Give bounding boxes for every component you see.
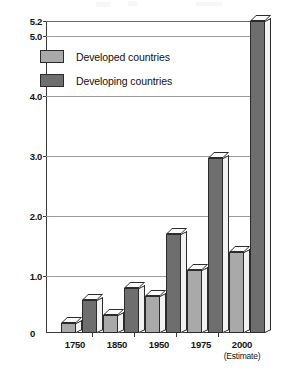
bar-face [145, 296, 160, 333]
bar-face [124, 288, 139, 333]
bar-face [250, 21, 265, 333]
bar-2000-developed[interactable] [229, 252, 244, 333]
bar-1950-developed[interactable] [145, 296, 160, 333]
gridline-5-0 [46, 36, 257, 37]
bar-face [229, 252, 244, 333]
bar-1850-developed[interactable] [103, 315, 118, 333]
legend: Developed countries Developing countries [40, 47, 172, 95]
bar-face [187, 270, 202, 333]
y-tick-label-5-2: 5.2 [14, 16, 42, 27]
x-tick-label-2000: 2000 (Estimate) [212, 339, 272, 361]
y-tick-label-1-0: 1.0 [14, 271, 42, 282]
bar-face [208, 158, 223, 333]
legend-item-developed[interactable]: Developed countries [40, 47, 172, 66]
legend-label-developing: Developing countries [76, 75, 172, 87]
x-tick-mark [92, 333, 93, 337]
bar-face [166, 234, 181, 333]
bar-1750-developing[interactable] [82, 300, 97, 333]
y-tick-label-2-0: 2.0 [14, 211, 42, 222]
x-tick-mark [134, 333, 135, 337]
bar-chart: 5.2 5.0 4.0 3.0 2.0 1.0 0 [0, 0, 292, 382]
bar-1750-developed[interactable] [61, 323, 76, 333]
legend-swatch-developed-icon [40, 50, 64, 63]
legend-item-developing[interactable]: Developing countries [40, 71, 172, 90]
bar-2000-developing[interactable] [250, 21, 265, 333]
y-tick-label-5-0: 5.0 [14, 31, 42, 42]
x-tick-label-2000-year: 2000 [232, 339, 252, 350]
gridline-4-0 [46, 96, 257, 97]
x-tick-label-2000-estimate: (Estimate) [212, 351, 272, 361]
bar-face [82, 300, 97, 333]
bar-1975-developing[interactable] [208, 158, 223, 333]
bar-1975-developed[interactable] [187, 270, 202, 333]
y-tick-label-3-0: 3.0 [14, 151, 42, 162]
y-tick-label-0: 0 [30, 328, 35, 339]
bar-side [265, 18, 271, 333]
bar-face [61, 323, 76, 333]
bar-1850-developing[interactable] [124, 288, 139, 333]
bar-1950-developing[interactable] [166, 234, 181, 333]
gridline-5-2 [46, 21, 257, 22]
bar-face [103, 315, 118, 333]
legend-swatch-developing-icon [40, 74, 64, 87]
x-tick-mark [176, 333, 177, 337]
y-tick-label-4-0: 4.0 [14, 91, 42, 102]
x-tick-mark [218, 333, 219, 337]
legend-label-developed: Developed countries [76, 51, 170, 63]
